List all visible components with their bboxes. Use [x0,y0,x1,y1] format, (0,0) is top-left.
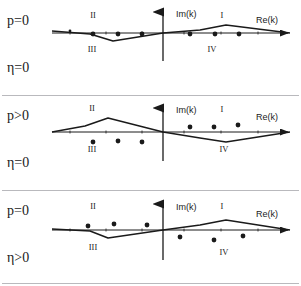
panel-2-real-axis-label: Re(k) [256,112,278,122]
pole-marker [116,32,121,37]
pole-marker [241,234,246,239]
panel-2-quadrant-4: IV [220,144,230,154]
panel-separator-3 [2,283,299,284]
panel-p0-eta0: p=0 η=0 [0,0,301,95]
panel-p0-etagt0: p=0 η>0 [0,190,301,285]
panel-3-plot: Im(k) Re(k) I II III IV [0,190,301,285]
panel-1-plot: Im(k) Re(k) I II III IV [0,0,301,95]
pole-marker [212,238,217,243]
pole-marker [212,125,217,130]
pole-marker [213,32,218,37]
panel-3-imag-axis-label: Im(k) [176,202,197,212]
figure-root: p=0 η=0 [0,0,301,286]
pole-marker [188,125,193,130]
panel-1-quadrant-4: IV [208,44,218,54]
pole-marker [237,32,242,37]
panel-1-quadrant-1: I [221,10,224,20]
pole-marker [145,223,150,228]
pole-marker [112,222,117,227]
panel-2-quadrant-2: II [89,103,95,113]
panel-3-real-axis-label: Re(k) [256,209,278,219]
panel-3-poles [86,222,246,243]
pole-marker [178,235,183,240]
panel-1-imag-axis-label: Im(k) [176,9,197,19]
pole-marker [69,30,72,33]
panel-1-quadrant-2: II [90,10,96,20]
panel-2-imag-axis-label: Im(k) [176,105,197,115]
pole-marker [116,139,121,144]
panel-2-quadrant-3: III [88,144,97,154]
panel-1-real-axis-label: Re(k) [256,15,278,25]
pole-marker [236,123,241,128]
panel-2-quadrant-1: I [221,104,224,114]
panel-3-quadrant-1: I [221,201,224,211]
panel-3-quadrant-2: II [90,201,96,211]
pole-marker [140,140,145,145]
panel-3-contour [52,220,290,238]
panel-2-plot: Im(k) Re(k) I II III IV [0,95,301,190]
panel-3-quadrant-3: III [89,242,98,252]
panel-pgt0-eta0: p>0 η=0 [0,95,301,190]
panel-1-quadrant-3: III [88,44,97,54]
panel-3-quadrant-4: IV [220,247,230,257]
panel-2-contour [52,118,290,142]
pole-marker [91,32,96,37]
pole-marker [188,32,193,37]
pole-marker [140,32,145,37]
pole-marker [86,224,91,229]
